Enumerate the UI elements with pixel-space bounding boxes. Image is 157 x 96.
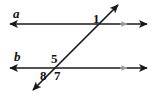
geometry-canvas [0,0,157,96]
geometry-diagram: a b 1 5 8 7 [0,0,157,96]
angle-label-8: 8 [40,69,47,82]
line-label-b: b [14,50,21,63]
line-label-a: a [13,7,20,20]
angle-label-7: 7 [54,69,61,82]
angle-label-1: 1 [93,12,100,25]
angle-label-5: 5 [51,52,58,65]
